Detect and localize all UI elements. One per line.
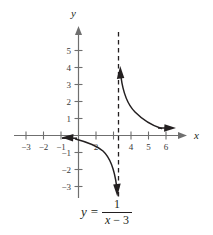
- y-tick-label-neg1: −1: [53, 148, 71, 157]
- equation-denominator-variable: x: [105, 213, 110, 227]
- x-tick-label-6: 6: [164, 143, 169, 152]
- y-tick-label-5: 5: [58, 46, 71, 55]
- y-tick-label-3: 3: [58, 80, 71, 89]
- x-axis-label: x: [194, 130, 199, 141]
- equation-row: y = 1 x − 3: [81, 198, 132, 226]
- y-tick-label-neg2: −2: [53, 165, 71, 174]
- function-graph-figure: −3 −2 −1 2 4 5 6 5 4 3 2 1 −1 −2 −3 y x …: [0, 0, 213, 235]
- right-branch-right-arrowhead: [164, 124, 176, 132]
- x-tick-label-neg2: −2: [39, 143, 49, 152]
- left-branch-down-arrowhead: [113, 184, 121, 197]
- y-axis: [75, 26, 82, 198]
- equation-lhs: y: [81, 204, 87, 220]
- equation-numerator: 1: [109, 198, 125, 212]
- y-tick-label-1: 1: [58, 114, 71, 123]
- equation-denominator: x − 3: [102, 213, 132, 227]
- equation-denominator-constant: 3: [123, 213, 129, 227]
- x-axis: [14, 132, 187, 139]
- curve-right-branch: [117, 66, 176, 132]
- y-axis-label: y: [71, 8, 76, 19]
- x-tick-label-2: 2: [94, 143, 99, 152]
- equation-denominator-operator: −: [113, 213, 120, 227]
- y-tick-label-4: 4: [58, 63, 71, 72]
- equation-equals-sign: =: [91, 204, 98, 220]
- equation-caption: y = 1 x − 3: [0, 198, 213, 226]
- y-tick-label-2: 2: [58, 97, 71, 106]
- y-tick-label-neg3: −3: [53, 182, 71, 191]
- x-tick-label-neg3: −3: [21, 143, 31, 152]
- x-tick-label-4: 4: [129, 143, 134, 152]
- equation-fraction: 1 x − 3: [102, 198, 132, 226]
- x-tick-label-5: 5: [146, 143, 151, 152]
